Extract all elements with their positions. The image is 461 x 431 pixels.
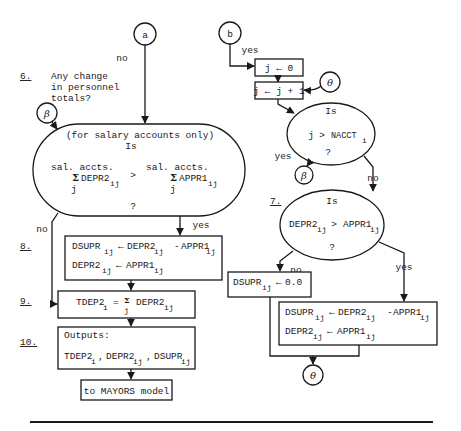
svg-text:Is: Is [325, 106, 336, 117]
svg-text:APPR1: APPR1 [393, 307, 422, 318]
flow-arrow [52, 122, 57, 129]
svg-text:-: - [174, 241, 180, 252]
decision-depr-gt-appr: Is DEPR2 ij > APPR1 ij ? [280, 190, 384, 260]
decision-j-gt-nacct: Is j > NACCT i ? [287, 103, 375, 165]
box-dsupr-difference: DSUPR ij ← DEPR2 ij - APPR1 ij DEPR2 ij … [279, 302, 437, 345]
svg-text:β: β [300, 170, 307, 181]
svg-text:ij: ij [154, 247, 164, 256]
svg-text:ij: ij [317, 225, 327, 234]
connector-b: b [219, 22, 241, 44]
svg-text:←: ← [118, 241, 124, 252]
step6-question-line2: in personnel [51, 82, 120, 93]
connector-theta-exit: θ [303, 365, 323, 385]
svg-text:j ← j + 1: j ← j + 1 [253, 86, 305, 97]
svg-text:θ: θ [327, 77, 333, 88]
step6-question-line3: totals? [51, 93, 91, 104]
step-number-10: 10. [20, 337, 37, 348]
svg-text:DSUPR: DSUPR [154, 351, 183, 362]
svg-text:sal. accts.: sal. accts. [51, 162, 114, 173]
svg-text:,: , [98, 351, 104, 362]
step6-question-line1: Any change [51, 71, 108, 82]
svg-text:>: > [319, 130, 325, 141]
svg-text:j: j [124, 306, 129, 315]
svg-text:?: ? [130, 201, 136, 212]
flowchart: a no 6. Any change in personnel totals? … [0, 0, 461, 431]
label-no-j: no [367, 173, 379, 184]
svg-text:Σ: Σ [72, 172, 79, 183]
svg-text:i: i [103, 303, 108, 312]
svg-text:ij: ij [370, 225, 380, 234]
svg-text:DEPR2: DEPR2 [289, 219, 318, 230]
svg-text:?: ? [325, 147, 331, 158]
svg-text:ij: ij [102, 266, 112, 275]
step-number-9: 9. [20, 296, 31, 307]
svg-text:DEPR2: DEPR2 [81, 173, 110, 184]
svg-text:NACCT: NACCT [331, 131, 357, 141]
svg-text:θ: θ [310, 370, 316, 381]
svg-text:APPR1: APPR1 [126, 260, 155, 271]
svg-text:j: j [71, 184, 77, 195]
box-step8-assignments: DSUPR ij ← DEPR2 ij - APPR1 ij DEPR2 ij … [65, 236, 222, 280]
box-step9-total: TDEP2 i = Σ j DEPR2 ij [58, 291, 195, 318]
svg-text:ij: ij [420, 313, 430, 322]
label-yes-b: yes [241, 45, 258, 56]
decision-qualifier: (for salary accounts only) [66, 130, 214, 141]
svg-text:DSUPR: DSUPR [233, 277, 262, 288]
svg-text:ij: ij [208, 179, 218, 188]
svg-text:Is: Is [125, 141, 136, 152]
svg-text:DEPR2: DEPR2 [338, 307, 367, 318]
svg-text:DEPR2: DEPR2 [72, 260, 101, 271]
label-no-salary: no [36, 224, 48, 235]
svg-text:DSUPR: DSUPR [72, 241, 101, 252]
svg-text:DEPR2: DEPR2 [127, 241, 156, 252]
svg-text:Is: Is [326, 196, 337, 207]
svg-text:TDEP2: TDEP2 [76, 297, 105, 308]
svg-text:ij: ij [154, 266, 164, 275]
svg-text:Σ: Σ [170, 172, 177, 183]
flow-arrow [278, 99, 294, 113]
flow-arrow [304, 86, 321, 90]
step-number-6: 6. [20, 71, 31, 82]
svg-text:←: ← [116, 260, 122, 271]
box-loop-increment: j ← j + 1 [253, 82, 305, 99]
box-loop-init: j ← 0 [255, 59, 303, 76]
svg-text:ij: ij [262, 283, 272, 292]
flow-arrow [307, 162, 310, 166]
svg-text:ij: ij [315, 313, 325, 322]
svg-text:DEPR2: DEPR2 [106, 351, 135, 362]
svg-text:j: j [170, 184, 176, 195]
connector-beta-entry: β [37, 103, 57, 123]
svg-text:APPR1: APPR1 [337, 326, 366, 337]
svg-text:DEPR2: DEPR2 [136, 297, 165, 308]
svg-text:ij: ij [164, 303, 174, 312]
svg-text:-: - [387, 307, 393, 318]
svg-text:i: i [362, 136, 367, 145]
svg-text:ij: ij [366, 313, 376, 322]
step-number-8: 8. [20, 241, 31, 252]
connector-theta-entry: θ [320, 72, 340, 92]
svg-text:ij: ij [133, 357, 143, 366]
svg-text:←: ← [276, 277, 282, 288]
label-no-a: no [116, 53, 128, 64]
svg-text:Outputs:: Outputs: [64, 330, 110, 341]
svg-text:β: β [43, 108, 50, 119]
svg-text:Σ: Σ [124, 295, 130, 305]
svg-text:TDEP2: TDEP2 [64, 351, 93, 362]
svg-text:←: ← [329, 307, 335, 318]
step-number-7: 7. [270, 196, 281, 207]
decision-salary-totals: (for salary accounts only) Is sal. accts… [33, 124, 245, 216]
svg-text:sal. accts.: sal. accts. [146, 162, 209, 173]
svg-text:0.0: 0.0 [285, 277, 302, 288]
svg-text:j: j [308, 130, 314, 141]
svg-text:ij: ij [181, 357, 191, 366]
label-yes-j: yes [274, 151, 291, 162]
svg-text:>: > [331, 219, 337, 230]
svg-text:ij: ij [110, 179, 120, 188]
svg-text:ij: ij [366, 332, 376, 341]
svg-text:to MAYORS model: to MAYORS model [84, 386, 170, 397]
svg-text:ij: ij [206, 247, 216, 256]
svg-text:←: ← [327, 326, 333, 337]
connector-beta-exit: β [295, 166, 313, 184]
box-dsupr-zero: DSUPR ij ← 0.0 [228, 272, 311, 297]
svg-text:?: ? [329, 242, 335, 253]
